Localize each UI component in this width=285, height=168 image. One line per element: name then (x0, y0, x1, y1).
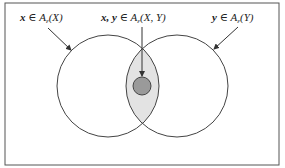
joint-typical-set-core (133, 77, 151, 95)
label-left: x ∈ Aε(X) (19, 11, 63, 25)
venn-diagram: x ∈ Aε(X) x, y ∈ Aε(X, Y) y ∈ Aε(Y) (0, 0, 285, 168)
label-center: x, y ∈ Aε(X, Y) (100, 11, 166, 25)
label-right: y ∈ Aε(Y) (210, 11, 254, 25)
